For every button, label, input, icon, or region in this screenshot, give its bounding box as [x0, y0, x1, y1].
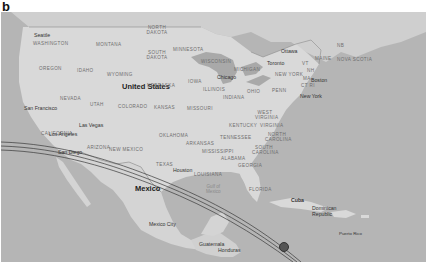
state-label: VT	[302, 61, 309, 66]
state-label: NOVA SCOTIA	[337, 57, 372, 62]
state-label: OREGON	[39, 66, 62, 71]
city-label: Los Angeles	[49, 131, 77, 137]
map-view[interactable]: United States Mexico Cuba Dominican Repu…	[1, 12, 426, 262]
state-label: WISCONSIN	[201, 59, 231, 64]
state-label: MISSOURI	[187, 106, 213, 111]
state-label: MA	[303, 76, 311, 81]
state-label: MAINE	[315, 56, 332, 61]
state-label: COLORADO	[118, 104, 148, 109]
country-label: Dominican Republic	[312, 205, 352, 217]
state-label: NEBRASKA	[147, 83, 175, 88]
city-label: Mexico City	[149, 221, 176, 227]
state-label: OHIO	[247, 89, 260, 94]
state-label: IDAHO	[77, 68, 94, 73]
state-label: ARIZONA	[87, 145, 110, 150]
state-label: FLORIDA	[249, 187, 272, 192]
country-label: Mexico	[135, 184, 160, 193]
state-label: PENN	[272, 88, 286, 93]
city-label: Seattle	[34, 32, 50, 38]
country-label: Cuba	[291, 197, 304, 203]
city-label: Las Vegas	[79, 122, 103, 128]
city-label: Toronto	[267, 60, 284, 66]
state-label: MISSISSIPPI	[202, 149, 234, 154]
state-label: SOUTH CAROLINA	[252, 145, 276, 155]
map-marker-pin[interactable]	[279, 242, 289, 252]
state-label: CT RI	[301, 83, 315, 88]
state-label: KENTUCKY	[229, 123, 257, 128]
city-label: San Diego	[58, 149, 82, 155]
city-label: Ottawa	[281, 48, 297, 54]
state-label: KANSAS	[154, 105, 175, 110]
state-label: ALABAMA	[221, 156, 246, 161]
state-label: OKLAHOMA	[159, 133, 188, 138]
state-label: INDIANA	[223, 95, 244, 100]
city-label: Boston	[311, 77, 327, 83]
state-label: LOUISIANA	[194, 172, 222, 177]
state-label: MONTANA	[96, 42, 121, 47]
state-label: WEST VIRGINIA	[255, 110, 275, 120]
country-label: Honduras	[218, 247, 241, 253]
state-label: WASHINGTON	[33, 41, 68, 46]
city-label: New York	[300, 93, 322, 99]
state-label: TEXAS	[156, 162, 173, 167]
state-label: GEORGIA	[238, 163, 262, 168]
state-label: ILLINOIS	[203, 87, 225, 92]
city-label: Chicago	[217, 74, 236, 80]
state-label: NH	[307, 68, 314, 73]
map-basemap	[1, 12, 426, 262]
city-label: Puerto Rico	[339, 231, 362, 236]
state-label: IOWA	[188, 79, 202, 84]
state-label: TENNESSEE	[220, 135, 251, 140]
state-label: SOUTH DAKOTA	[146, 50, 168, 60]
state-label: NB	[337, 43, 344, 48]
state-label: MINNESOTA	[173, 47, 204, 52]
state-label: WYOMING	[107, 72, 133, 77]
state-label: NEW YORK	[275, 72, 303, 77]
state-label: MICHIGAN	[234, 67, 260, 72]
state-label: NORTH DAKOTA	[146, 25, 168, 35]
city-label: San Francisco	[24, 105, 57, 111]
water-label: Gulf of Mexico	[206, 184, 221, 194]
state-label: ARKANSAS	[186, 141, 214, 146]
state-label: NEW MEXICO	[109, 147, 143, 152]
state-label: VIRGINIA	[260, 123, 283, 128]
state-label: UTAH	[90, 102, 104, 107]
state-label: NORTH CAROLINA	[265, 132, 289, 142]
state-label: NEVADA	[60, 96, 81, 101]
city-label: Houston	[173, 167, 192, 173]
